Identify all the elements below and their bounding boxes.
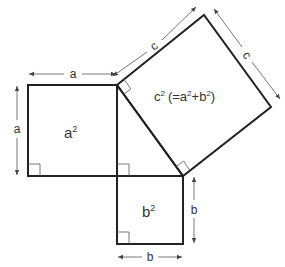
- label-area-c-formula: c2(=a2+b2): [154, 89, 215, 104]
- label-side-a-left: a: [14, 122, 21, 136]
- label-side-c-right: c: [240, 48, 255, 61]
- pythagorean-diagram: a a b b c c a2 b2 c2(=a2+b2): [0, 0, 285, 267]
- label-side-a-top: a: [70, 67, 77, 81]
- label-side-b-bottom: b: [147, 250, 154, 264]
- label-side-c-top: c: [147, 39, 160, 54]
- dimension-c-top: [113, 7, 196, 76]
- label-side-b-right: b: [191, 203, 198, 217]
- label-area-b: b2: [142, 203, 155, 220]
- right-angle-markers: [28, 79, 190, 244]
- label-area-a: a2: [64, 124, 77, 141]
